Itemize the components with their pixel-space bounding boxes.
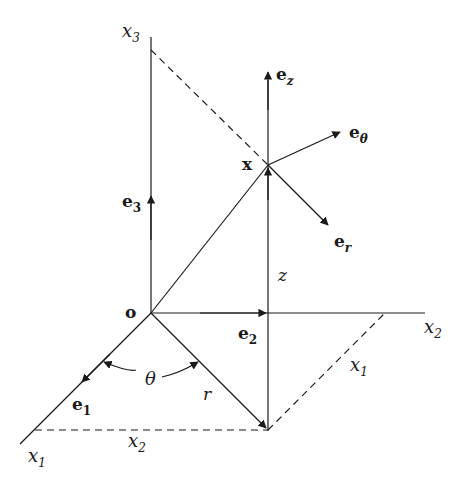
x2-dim-label: x2 [128, 430, 146, 455]
e2-label: e2 [238, 323, 257, 347]
x3-axis-label: x3 [122, 20, 140, 45]
diagram-canvas: x3 e3 ez eθ x er z o e2 x2 x1 θ r e1 x2 … [0, 0, 469, 484]
er-label: er [334, 231, 353, 255]
z-label: z [277, 265, 288, 285]
r-label: r [203, 384, 212, 404]
e1-vector [82, 354, 110, 382]
origin-label: o [125, 302, 136, 322]
x1-dim-label: x1 [350, 354, 368, 379]
dashed-x3-to-x [151, 50, 268, 165]
e1-label: e1 [72, 394, 91, 418]
position-vector [151, 165, 268, 313]
e-r-vector [268, 165, 328, 225]
theta-arc-left [104, 362, 136, 370]
theta-label: θ [145, 368, 156, 389]
e-theta-vector [268, 132, 340, 165]
cylindrical-coordinates-diagram: x3 e3 ez eθ x er z o e2 x2 x1 θ r e1 x2 … [0, 0, 469, 484]
x1-axis-label: x1 [28, 445, 46, 470]
e3-label: e3 [122, 191, 141, 215]
theta-arc-right [162, 362, 198, 377]
ez-label: ez [276, 64, 295, 88]
etheta-label: eθ [349, 122, 368, 146]
x-point-label: x [242, 154, 253, 174]
x2-axis-label: x2 [424, 316, 442, 341]
